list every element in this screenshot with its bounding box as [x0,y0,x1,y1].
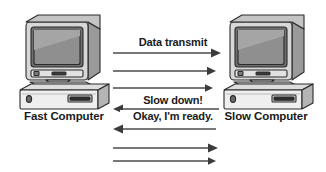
message-arrows [0,0,326,172]
arrow-label-data-transmit: Data transmit [128,36,218,48]
arrow-data-transmit [113,48,221,57]
arrow-data-3 [113,84,213,92]
fast-computer-label: Fast Computer [6,110,122,122]
arrow-data-2 [113,67,216,75]
arrow-label-slow-down: Slow down! [128,94,218,106]
arrow-resume-2 [113,157,216,165]
flow-control-diagram: Data transmit Slow down! Okay, I'm ready… [0,0,326,172]
arrow-resume-1 [113,143,218,152]
slow-computer-label: Slow Computer [208,110,324,122]
arrow-okay-ready [113,124,216,133]
